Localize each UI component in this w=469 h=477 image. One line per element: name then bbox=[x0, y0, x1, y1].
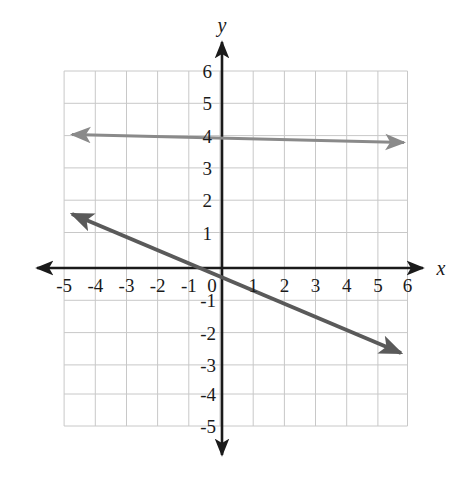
x-axis-label: x bbox=[436, 257, 446, 279]
y-tick-label: 6 bbox=[203, 61, 213, 82]
x-tick-label: 1 bbox=[248, 275, 258, 296]
coordinate-plane: -5 -4 -3 -2 -1 1 2 3 4 5 6 0 6 5 4 3 2 1… bbox=[0, 0, 469, 477]
y-tick-label: -3 bbox=[200, 355, 216, 376]
x-tick-label: -2 bbox=[150, 275, 166, 296]
y-tick-label: 1 bbox=[203, 223, 213, 244]
x-tick-label: -3 bbox=[119, 275, 135, 296]
y-tick-label: -1 bbox=[200, 290, 216, 311]
y-tick-label: 4 bbox=[203, 126, 213, 147]
grid-lines bbox=[64, 71, 407, 426]
y-tick-label: 2 bbox=[203, 190, 213, 211]
x-tick-label: 2 bbox=[280, 275, 290, 296]
x-tick-label: 3 bbox=[311, 275, 321, 296]
y-tick-label: -5 bbox=[200, 416, 216, 437]
x-tick-label: 4 bbox=[342, 275, 352, 296]
x-tick-label: 6 bbox=[403, 275, 413, 296]
y-tick-label: 5 bbox=[203, 93, 213, 114]
y-tick-labels: 6 5 4 3 2 1 -1 -2 -3 -4 -5 bbox=[200, 61, 216, 437]
graph-figure: -5 -4 -3 -2 -1 1 2 3 4 5 6 0 6 5 4 3 2 1… bbox=[0, 0, 469, 477]
x-tick-label: -4 bbox=[87, 275, 103, 296]
y-tick-label: -4 bbox=[200, 384, 216, 405]
y-tick-label: 3 bbox=[203, 158, 213, 179]
x-tick-labels: -5 -4 -3 -2 -1 1 2 3 4 5 6 bbox=[56, 275, 412, 296]
x-tick-label: 5 bbox=[373, 275, 383, 296]
y-tick-label: -2 bbox=[200, 323, 216, 344]
x-tick-label: -5 bbox=[56, 275, 72, 296]
x-tick-label: -1 bbox=[181, 275, 197, 296]
y-axis-label: y bbox=[216, 14, 227, 37]
